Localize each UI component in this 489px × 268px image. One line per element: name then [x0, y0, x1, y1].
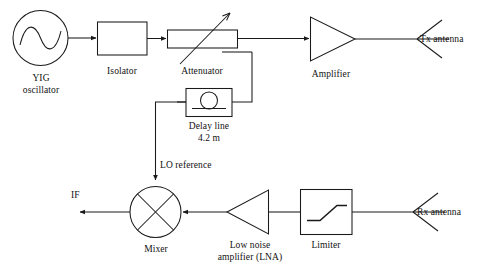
- delay-line-label-line2: 4.2 m: [198, 133, 220, 144]
- lo-reference-label: LO reference: [160, 160, 212, 171]
- diagram-graphics: [0, 0, 489, 268]
- wire-branch-to-delay-line: [232, 52, 252, 102]
- lna-label-line2: amplifier (LNA): [218, 252, 283, 263]
- lna-label-line1: Low noise: [230, 240, 271, 251]
- limiter-label: Limiter: [311, 240, 340, 251]
- isolator-label: Isolator: [107, 66, 137, 77]
- mixer-symbol: [130, 187, 181, 238]
- rx-antenna-label: Rx antenna: [417, 207, 461, 218]
- attenuator-diagonal: [180, 13, 230, 64]
- delay-line-label-line1: Delay line: [189, 121, 229, 132]
- attenuator-box: [168, 30, 238, 48]
- tx-antenna-label: Tx antenna: [420, 34, 463, 45]
- if-output-label: IF: [71, 190, 80, 201]
- yig-oscillator-symbol: [13, 11, 68, 66]
- attenuator-label: Attenuator: [181, 66, 223, 77]
- amplifier-triangle: [311, 17, 356, 61]
- lna-triangle: [227, 190, 269, 234]
- limiter-symbol: [301, 190, 353, 235]
- yig-oscillator-label-line1: YIG: [32, 73, 49, 84]
- isolator-box: [98, 22, 148, 55]
- mixer-label: Mixer: [144, 244, 168, 255]
- block-diagram-canvas: YIG oscillator Isolator Attenuator Ampli…: [0, 0, 489, 268]
- yig-oscillator-label-line2: oscillator: [23, 85, 59, 96]
- amplifier-label: Amplifier: [312, 69, 350, 80]
